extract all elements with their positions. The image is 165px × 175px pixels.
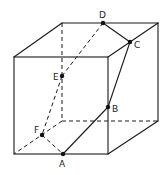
label-D: D — [99, 10, 106, 20]
section-edge-CD — [103, 23, 130, 42]
diagram-canvas: A B C D E F — [0, 0, 165, 175]
section-edge-EF — [42, 76, 62, 135]
point-A — [61, 152, 65, 156]
front-face — [14, 57, 108, 154]
point-C — [128, 40, 132, 44]
edge-bottom-right-depth — [108, 121, 158, 154]
label-E: E — [53, 72, 59, 82]
section-edge-AB — [63, 107, 108, 154]
section-edge-DE — [62, 23, 103, 76]
edge-top-left-depth — [14, 23, 62, 57]
point-B — [106, 105, 110, 109]
section-edge-FA — [42, 135, 63, 154]
edge-top-right-depth — [108, 23, 158, 57]
label-F: F — [34, 125, 39, 135]
point-E — [60, 74, 64, 78]
label-C: C — [134, 40, 140, 50]
point-F — [40, 133, 44, 137]
label-B: B — [112, 104, 118, 114]
label-A: A — [59, 159, 66, 169]
point-D — [101, 21, 105, 25]
section-edge-BC — [108, 42, 130, 107]
cube-diagram: A B C D E F — [0, 0, 165, 175]
